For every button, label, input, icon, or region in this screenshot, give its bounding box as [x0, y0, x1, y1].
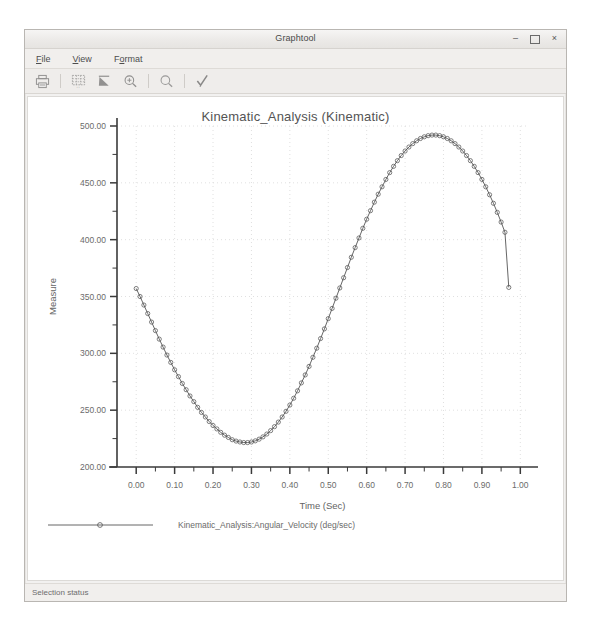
graphtool-window: Graphtool – × File View Format — [24, 29, 567, 602]
x-tick-label: 0.80 — [435, 480, 452, 490]
plot-area[interactable]: Kinematic_Analysis (Kinematic) 200.00250… — [27, 96, 564, 581]
menu-label-format-rest: rmat — [124, 54, 142, 64]
minimize-icon[interactable]: – — [510, 32, 521, 44]
svg-text:↔: ↔ — [76, 84, 81, 89]
screen-root: Graphtool – × File View Format — [0, 0, 590, 636]
zoom-in-icon[interactable] — [120, 71, 141, 92]
menu-label-view-rest: iew — [78, 54, 92, 64]
toolbar-separator-1 — [60, 74, 61, 88]
toolbar-separator-2 — [148, 74, 149, 88]
x-tick-label: 0.00 — [128, 480, 145, 490]
close-icon[interactable]: × — [549, 32, 560, 44]
x-tick-label: 0.10 — [166, 480, 183, 490]
x-tick-label: 0.90 — [474, 480, 491, 490]
status-text: Selection status — [32, 588, 88, 597]
zoom-out-icon[interactable] — [156, 71, 177, 92]
y-tick-label: 450.00 — [80, 178, 106, 188]
grid-table-icon[interactable]: ↔ — [68, 71, 89, 92]
maximize-icon[interactable] — [530, 35, 540, 44]
print-icon[interactable] — [32, 71, 53, 92]
x-tick-label: 1.00 — [512, 480, 529, 490]
y-tick-label: 500.00 — [80, 121, 106, 131]
apply-check-icon[interactable] — [192, 71, 213, 92]
y-axis-label: Measure — [47, 278, 58, 315]
chart-canvas[interactable]: 200.00250.00300.00350.00400.00450.00500.… — [28, 97, 561, 567]
y-tick-label: 300.00 — [80, 348, 106, 358]
edit-curve-icon[interactable] — [94, 71, 115, 92]
legend-label: Kinematic_Analysis:Angular_Velocity (deg… — [178, 520, 355, 530]
window-title: Graphtool — [25, 33, 566, 43]
toolbar: ↔ — [25, 69, 566, 94]
menu-label-file-rest: ile — [42, 54, 51, 64]
window-titlebar[interactable]: Graphtool – × — [25, 30, 566, 49]
x-tick-label: 0.50 — [320, 480, 337, 490]
menu-item-view[interactable]: View — [70, 53, 95, 65]
x-axis-label: Time (Sec) — [299, 500, 345, 511]
menu-item-format[interactable]: Format — [111, 53, 146, 65]
x-tick-label: 0.40 — [282, 480, 299, 490]
window-controls: – × — [510, 32, 560, 44]
menubar: File View Format — [25, 49, 566, 69]
menu-item-file[interactable]: File — [33, 53, 54, 65]
statusbar: Selection status — [25, 583, 566, 601]
y-tick-label: 400.00 — [80, 235, 106, 245]
x-tick-label: 0.60 — [358, 480, 375, 490]
x-tick-label: 0.70 — [397, 480, 414, 490]
x-tick-label: 0.20 — [205, 480, 222, 490]
y-tick-label: 200.00 — [80, 462, 106, 472]
toolbar-separator-3 — [184, 74, 185, 88]
y-tick-label: 250.00 — [80, 405, 106, 415]
x-tick-label: 0.30 — [243, 480, 260, 490]
y-tick-label: 350.00 — [80, 292, 106, 302]
